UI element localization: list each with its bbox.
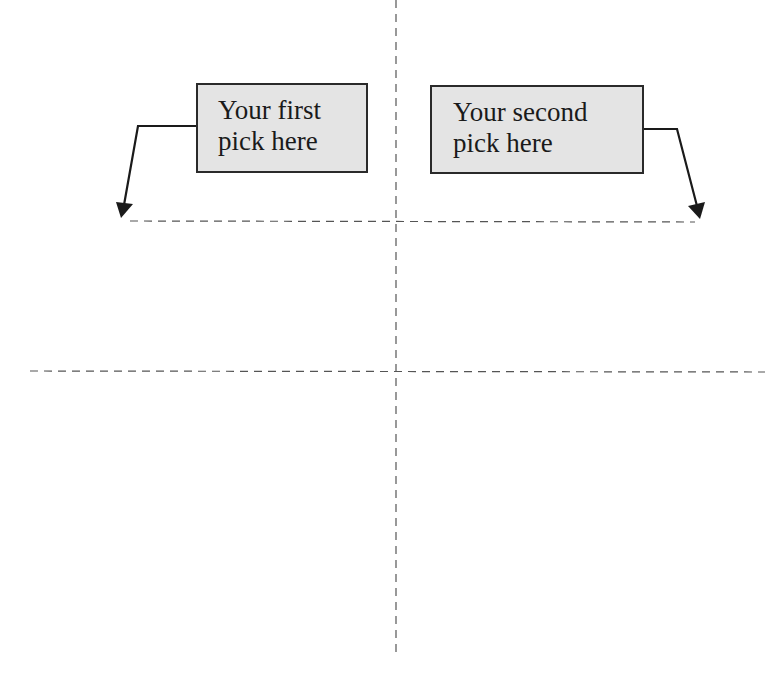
arrow-first-pick-icon [116,126,197,218]
second-pick-line2: pick here [453,128,642,159]
first-pick-line1: Your first [218,95,366,126]
second-pick-line1: Your second [453,97,642,128]
second-pick-box: Your second pick here [430,85,644,174]
first-pick-line2: pick here [218,126,366,157]
target-dashed-line [130,221,695,222]
horizontal-dashed-divider [30,371,765,372]
arrow-second-pick-icon [643,129,705,219]
first-pick-box: Your first pick here [196,83,368,173]
diagram-canvas [0,0,781,676]
